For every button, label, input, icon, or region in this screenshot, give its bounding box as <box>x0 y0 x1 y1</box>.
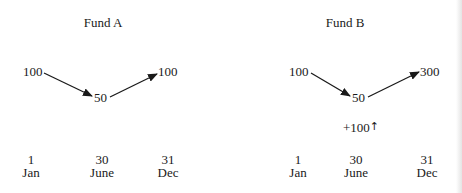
fund-a-end-value: 100 <box>158 65 178 79</box>
fund-a-date-mid-month: June <box>90 166 114 180</box>
fund-a-start-value: 100 <box>23 65 43 79</box>
fund-b-cash-flow: +100↑ <box>343 121 379 136</box>
fund-b-start-value: 100 <box>289 65 309 79</box>
fund-a-date-start-month: Jan <box>22 166 39 180</box>
fund-b-date-start-month: Jan <box>289 166 306 180</box>
fund-b-date-end-month: Dec <box>417 166 438 180</box>
fund-b-date-mid-month: June <box>344 166 368 180</box>
fund-b-title: Fund B <box>326 16 365 30</box>
fund-b-decline-arrow <box>311 73 350 96</box>
page-edge-shadow <box>456 0 462 193</box>
fund-b-end-value: 300 <box>420 65 440 79</box>
fund-b-cash-flow-amount: +100 <box>343 120 370 135</box>
fund-a-title: Fund A <box>84 16 123 30</box>
fund-a-date-end-month: Dec <box>158 166 179 180</box>
fund-a-mid-value: 50 <box>94 91 107 105</box>
up-arrow-icon: ↑ <box>370 120 379 133</box>
fund-b-mid-value: 50 <box>352 91 365 105</box>
fund-b-rise-arrow <box>368 72 419 97</box>
fund-a-decline-arrow <box>44 73 92 96</box>
arrows-layer <box>0 0 462 193</box>
fund-a-rise-arrow <box>110 74 157 97</box>
